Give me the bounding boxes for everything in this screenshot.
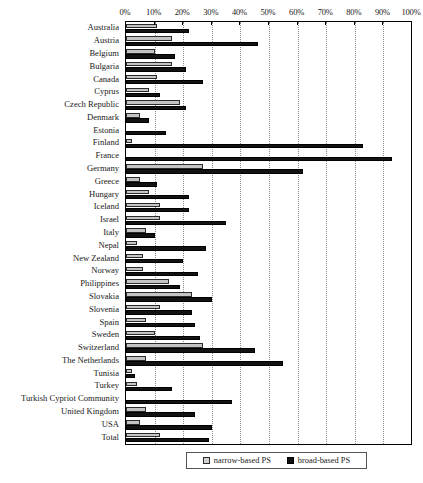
- category-label: Turkey: [94, 380, 119, 390]
- x-tick-label: 80%: [346, 7, 361, 18]
- category-label: New Zealand: [73, 253, 119, 263]
- bar-broad: [126, 400, 232, 404]
- category-label: The Netherlands: [62, 355, 119, 365]
- category-label: Slovakia: [89, 291, 119, 301]
- category-label: Italy: [103, 227, 119, 237]
- bar-narrow: [126, 113, 140, 117]
- legend-label-broad: broad-based PS: [298, 456, 350, 466]
- bar-narrow: [126, 305, 160, 309]
- category-label: Spain: [99, 317, 119, 327]
- x-tick-label: 20%: [175, 7, 190, 18]
- bar-broad: [126, 310, 192, 314]
- x-tick-label: 100%: [401, 7, 420, 18]
- x-tickmark: [182, 21, 183, 25]
- bar-broad: [126, 106, 186, 110]
- bar-narrow: [126, 100, 180, 104]
- bar-broad: [126, 182, 157, 186]
- category-label: Total: [101, 432, 119, 442]
- bar-broad: [126, 361, 283, 365]
- legend-item-broad-based-ps: broad-based PS: [287, 456, 350, 466]
- bar-narrow: [126, 369, 132, 373]
- bar-narrow: [126, 433, 160, 437]
- bar-broad: [126, 233, 155, 237]
- category-label: Turkish Cypriot Community: [21, 393, 119, 403]
- category-label: Czech Republic: [64, 99, 119, 109]
- x-tickmark: [154, 21, 155, 25]
- category-label: Nepal: [98, 240, 119, 250]
- y-axis-category-labels: AustraliaAustriaBelgiumBulgariaCanadaCyp…: [0, 21, 122, 445]
- x-tickmark: [297, 21, 298, 25]
- bar-broad: [126, 169, 303, 173]
- bar-broad: [126, 54, 175, 58]
- category-label: Australia: [87, 22, 119, 32]
- x-tickmark: [239, 21, 240, 25]
- bar-narrow: [126, 292, 192, 296]
- bar-broad: [126, 323, 195, 327]
- bar-broad: [126, 80, 203, 84]
- legend-swatch-broad-icon: [287, 457, 294, 464]
- bar-narrow: [126, 343, 203, 347]
- category-label: Hungary: [89, 189, 119, 199]
- category-label: Slovenia: [89, 304, 119, 314]
- bar-narrow: [126, 254, 143, 258]
- bar-broad: [126, 438, 209, 442]
- chart-legend: narrow-based PS broad-based PS: [186, 452, 367, 469]
- x-tick-label: 50%: [261, 7, 276, 18]
- category-label: Sweden: [92, 329, 119, 339]
- bar-broad: [126, 336, 200, 340]
- bar-narrow: [126, 382, 137, 386]
- bar-broad: [126, 131, 166, 135]
- x-tick-label: 90%: [375, 7, 390, 18]
- bar-broad: [126, 348, 255, 352]
- bar-broad: [126, 285, 180, 289]
- category-label: Iceland: [94, 201, 119, 211]
- bar-narrow: [126, 49, 155, 53]
- x-tick-label: 70%: [318, 7, 333, 18]
- bar-broad: [126, 259, 183, 263]
- bar-narrow: [126, 36, 172, 40]
- bar-narrow: [126, 407, 146, 411]
- category-label: USA: [102, 419, 119, 429]
- bar-broad: [126, 67, 186, 71]
- category-label: Bulgaria: [89, 61, 119, 71]
- x-tickmark: [268, 21, 269, 25]
- bar-narrow: [126, 164, 203, 168]
- category-label: Cyprus: [94, 86, 119, 96]
- bar-narrow: [126, 420, 140, 424]
- x-tickmark: [382, 21, 383, 25]
- bar-narrow: [126, 331, 155, 335]
- x-tick-label: 10%: [146, 7, 161, 18]
- x-tick-label: 60%: [289, 7, 304, 18]
- category-label: Germany: [87, 163, 119, 173]
- bar-narrow: [126, 62, 172, 66]
- bar-broad: [126, 42, 258, 46]
- bar-narrow: [126, 228, 146, 232]
- category-label: France: [96, 150, 119, 160]
- legend-item-narrow-based-ps: narrow-based PS: [203, 456, 271, 466]
- bar-broad: [126, 118, 149, 122]
- category-label: Philippines: [80, 278, 119, 288]
- category-label: Tunisia: [94, 368, 119, 378]
- x-tick-label: 30%: [203, 7, 218, 18]
- category-label: Israel: [100, 214, 119, 224]
- bar-broad: [126, 412, 195, 416]
- bar-broad: [126, 272, 198, 276]
- bar-broad: [126, 144, 363, 148]
- category-label: United Kingdom: [61, 406, 119, 416]
- category-label: Austria: [94, 35, 119, 45]
- bar-broad: [126, 93, 160, 97]
- category-label: Denmark: [87, 112, 119, 122]
- bar-broad: [126, 208, 189, 212]
- bar-broad: [126, 387, 172, 391]
- bar-narrow: [126, 88, 149, 92]
- bar-broad: [126, 29, 189, 33]
- bar-broad: [126, 195, 189, 199]
- category-label: Greece: [95, 176, 119, 186]
- x-tick-label: 40%: [232, 7, 247, 18]
- bar-chart: 0%10%20%30%40%50%60%70%80%90%100% Austra…: [0, 0, 423, 483]
- category-label: Belgium: [89, 48, 119, 58]
- bar-narrow: [126, 177, 140, 181]
- bar-narrow: [126, 241, 137, 245]
- bar-narrow: [126, 267, 143, 271]
- category-label: Switzerland: [78, 342, 119, 352]
